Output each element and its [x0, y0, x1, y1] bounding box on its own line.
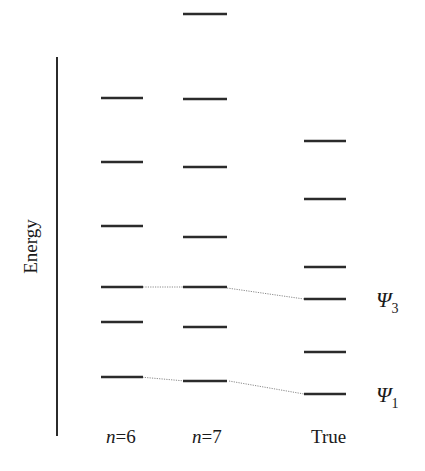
column-true [304, 141, 346, 394]
state-label-psi-3: Ψ3 [376, 287, 398, 316]
column-labels: n=6n=7True [106, 426, 346, 447]
energy-axis-label: Energy [20, 219, 41, 274]
column-n6 [101, 98, 143, 377]
column-label-true: True [311, 426, 346, 447]
level-correlation-line [229, 381, 304, 394]
level-connectors [140, 287, 304, 394]
energy-levels [101, 14, 346, 394]
column-label-n7: n=7 [192, 426, 222, 447]
state-labels: Ψ3Ψ1 [376, 287, 398, 411]
column-n7 [183, 14, 227, 381]
state-label-psi-1: Ψ1 [376, 382, 398, 411]
energy-axis: Energy [20, 57, 57, 436]
level-correlation-line [140, 377, 185, 381]
energy-level-diagram: Energy n=6n=7True Ψ3Ψ1 [0, 0, 425, 471]
level-correlation-line [227, 288, 304, 299]
column-label-n6: n=6 [106, 426, 136, 447]
